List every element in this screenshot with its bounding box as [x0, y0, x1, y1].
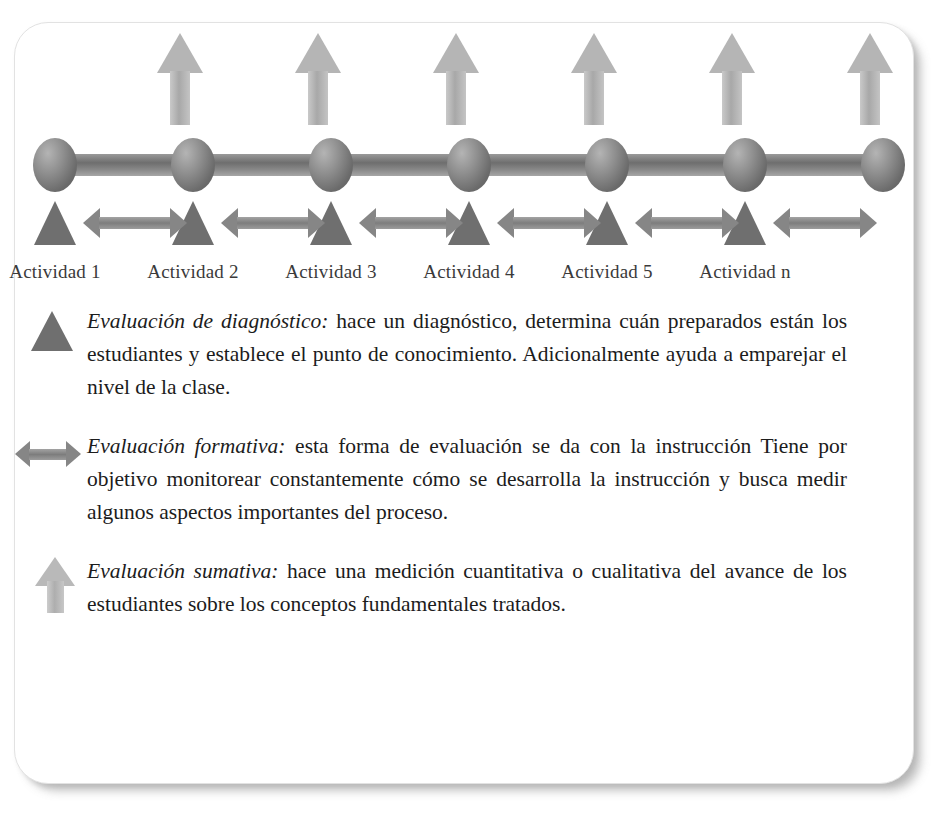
legend-item-formativa: Evaluación formativa: esta forma de eval… — [15, 430, 915, 529]
diagram-card: Actividad 1 Actividad 2 Actividad 3 Acti… — [14, 22, 914, 784]
activity-label-1: Actividad 1 — [0, 261, 130, 283]
arrow-head-left — [221, 208, 238, 238]
evaluation-timeline: Actividad 1 Actividad 2 Actividad 3 Acti… — [15, 23, 915, 281]
legend-term: Evaluación sumativa: — [87, 559, 278, 583]
arrow-shaft — [722, 71, 742, 125]
arrow-head-left — [83, 208, 100, 238]
timeline-node — [33, 138, 77, 192]
double-arrow-icon — [497, 208, 601, 238]
arrow-head — [709, 33, 755, 73]
activity-label-5: Actividad 5 — [532, 261, 682, 283]
up-arrow-icon — [15, 555, 87, 607]
arrow-head — [433, 33, 479, 73]
page-root: Actividad 1 Actividad 2 Actividad 3 Acti… — [0, 0, 949, 826]
arrow-head-right — [446, 208, 463, 238]
double-arrow-icon — [773, 208, 877, 238]
legend-text-sumativa: Evaluación sumativa: hace una medición c… — [87, 555, 847, 621]
arrow-head-left — [15, 441, 30, 467]
up-arrow-icon — [571, 33, 617, 125]
arrow-head — [571, 33, 617, 73]
up-arrow-icon — [847, 33, 893, 125]
arrow-body — [29, 449, 67, 460]
up-arrow-icon — [295, 33, 341, 125]
activity-label-3: Actividad 3 — [256, 261, 406, 283]
timeline-node — [171, 138, 215, 192]
legend-list: Evaluación de diagnóstico: hace un diagn… — [15, 305, 915, 647]
legend-item-sumativa: Evaluación sumativa: hace una medición c… — [15, 555, 915, 621]
arrow-head-left — [635, 208, 652, 238]
arrow-head-right — [584, 208, 601, 238]
legend-text-diagnostico: Evaluación de diagnóstico: hace un diagn… — [87, 305, 847, 404]
arrow-head-right — [308, 208, 325, 238]
triangle-icon — [34, 201, 76, 245]
activity-label-n: Actividad n — [670, 261, 820, 283]
arrow-body — [513, 217, 585, 229]
arrow-body — [651, 217, 723, 229]
legend-item-diagnostico: Evaluación de diagnóstico: hace un diagn… — [15, 305, 915, 404]
up-arrow-icon — [709, 33, 755, 125]
up-arrow-icon — [433, 33, 479, 125]
timeline-node — [585, 138, 629, 192]
arrow-head-left — [359, 208, 376, 238]
arrow-head-left — [497, 208, 514, 238]
arrow-head — [157, 33, 203, 73]
legend-term: Evaluación formativa: — [87, 434, 285, 458]
timeline-node — [723, 138, 767, 192]
timeline-node — [447, 138, 491, 192]
arrow-shaft — [170, 71, 190, 125]
double-arrow-icon — [359, 208, 463, 238]
arrow-head-right — [66, 441, 81, 467]
activity-label-2: Actividad 2 — [118, 261, 268, 283]
triangle-shape — [31, 311, 73, 351]
arrow-shaft — [308, 71, 328, 125]
timeline-node — [309, 138, 353, 192]
arrow-body — [99, 217, 171, 229]
legend-text-formativa: Evaluación formativa: esta forma de eval… — [87, 430, 847, 529]
arrow-head-right — [860, 208, 877, 238]
arrow-body — [237, 217, 309, 229]
double-arrow-icon — [635, 208, 739, 238]
triangle-icon — [15, 305, 87, 357]
double-arrow-shape — [15, 441, 81, 467]
arrow-body — [375, 217, 447, 229]
arrow-head-left — [773, 208, 790, 238]
arrow-body — [789, 217, 861, 229]
arrow-shaft — [584, 71, 604, 125]
activity-label-4: Actividad 4 — [394, 261, 544, 283]
arrow-head — [295, 33, 341, 73]
up-arrow-shape — [35, 557, 75, 613]
arrow-shaft — [860, 71, 880, 125]
arrow-head-right — [722, 208, 739, 238]
legend-term: Evaluación de diagnóstico: — [87, 309, 328, 333]
arrow-shaft — [47, 581, 64, 613]
arrow-head — [847, 33, 893, 73]
double-arrow-icon — [221, 208, 325, 238]
arrow-head-right — [170, 208, 187, 238]
double-arrow-icon — [15, 430, 87, 482]
up-arrow-icon — [157, 33, 203, 125]
timeline-node — [861, 138, 905, 192]
arrow-shaft — [446, 71, 466, 125]
double-arrow-icon — [83, 208, 187, 238]
